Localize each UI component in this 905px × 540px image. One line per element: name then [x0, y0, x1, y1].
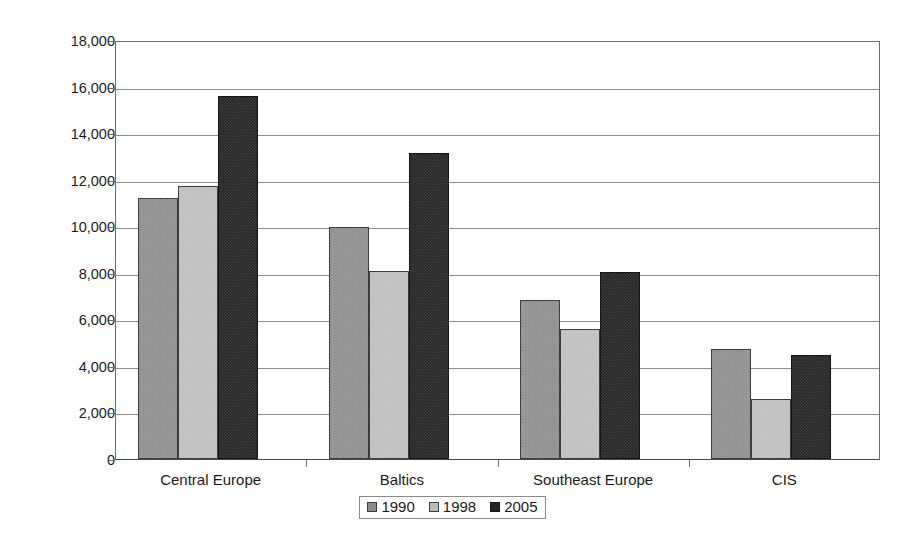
legend-box: 199019982005: [359, 496, 545, 519]
bar: [138, 198, 178, 459]
bar: [600, 272, 640, 459]
y-tick-label: 14,000: [11, 127, 115, 141]
x-category-label: CIS: [689, 471, 880, 489]
legend-item[interactable]: 1990: [367, 499, 414, 515]
legend-swatch-icon: [367, 502, 377, 512]
y-axis-ticks: 18,00016,00014,00012,00010,0008,0006,000…: [0, 41, 115, 460]
bar: [369, 271, 409, 459]
bar: [218, 96, 258, 459]
legend-label: 1998: [443, 499, 476, 515]
y-tick-label: 10,000: [11, 220, 115, 234]
x-axis: Central EuropeBalticsSoutheast EuropeCIS: [115, 460, 880, 500]
x-tick-mark: [689, 460, 690, 467]
legend: 199019982005: [0, 496, 905, 519]
bar: [520, 300, 560, 459]
y-tick-label: 4,000: [11, 360, 115, 374]
bar-group: [329, 42, 449, 459]
x-tick-mark: [498, 460, 499, 467]
legend-swatch-icon: [429, 502, 439, 512]
bar: [791, 355, 831, 459]
bar: [409, 153, 449, 459]
x-category-label: Baltics: [306, 471, 497, 489]
legend-swatch-icon: [490, 502, 500, 512]
y-tick-label: 12,000: [11, 174, 115, 188]
legend-label: 1990: [381, 499, 414, 515]
x-category-label: Central Europe: [115, 471, 306, 489]
bar: [560, 329, 600, 459]
bar-group: [520, 42, 640, 459]
y-tick-label: 8,000: [11, 267, 115, 281]
x-category-label: Southeast Europe: [498, 471, 689, 489]
legend-item[interactable]: 1998: [429, 499, 476, 515]
bar-chart: Constant 2000 International US$ 18,00016…: [0, 0, 905, 540]
legend-item[interactable]: 2005: [490, 499, 537, 515]
y-tick-label: 2,000: [11, 406, 115, 420]
bar: [178, 186, 218, 460]
legend-label: 2005: [504, 499, 537, 515]
y-tick-label: 6,000: [11, 313, 115, 327]
plot-area: [115, 41, 880, 460]
bar-group: [138, 42, 258, 459]
bar-group: [711, 42, 831, 459]
bar: [711, 349, 751, 459]
y-tick-label: 16,000: [11, 81, 115, 95]
y-tick-label: 18,000: [11, 34, 115, 48]
y-tick-label: 0: [11, 453, 115, 467]
bar: [329, 227, 369, 459]
x-tick-mark: [306, 460, 307, 467]
bar: [751, 399, 791, 459]
